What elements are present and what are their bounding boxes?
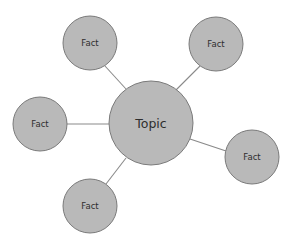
fact-node-right[interactable]: Fact	[225, 130, 279, 184]
fact-node-left[interactable]: Fact	[13, 97, 67, 151]
topic-node[interactable]: Topic	[109, 81, 193, 165]
fact-node-top-left[interactable]: Fact	[63, 16, 117, 70]
fact-node-top-right[interactable]: Fact	[189, 17, 243, 71]
fact-node-bottom[interactable]: Fact	[63, 179, 117, 233]
fact-label: Fact	[243, 152, 261, 162]
connector-right	[190, 139, 226, 151]
connector-top-left	[105, 66, 126, 89]
fact-label: Fact	[81, 201, 99, 211]
topic-label: Topic	[134, 116, 167, 131]
fact-label: Fact	[207, 39, 225, 49]
connector-bottom	[106, 158, 126, 184]
mind-map-diagram: Fact Fact Fact Fact Fact Topic	[0, 0, 295, 244]
connector-top-right	[176, 66, 200, 90]
fact-label: Fact	[81, 38, 99, 48]
fact-label: Fact	[31, 119, 49, 129]
